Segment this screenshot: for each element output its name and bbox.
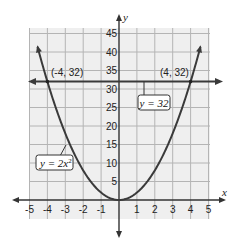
x-tick-label: -5 bbox=[25, 204, 34, 215]
x-tick-label: 5 bbox=[206, 204, 212, 215]
point-label-right: (4, 32) bbox=[160, 67, 189, 78]
grid-background bbox=[30, 28, 210, 219]
x-axis-label: x bbox=[221, 186, 227, 198]
x-tick-label: -4 bbox=[43, 204, 52, 215]
intersection-point bbox=[46, 80, 50, 84]
y-axis-up-arrow-icon bbox=[116, 14, 122, 21]
y-tick-label: 30 bbox=[106, 84, 118, 95]
y-tick-label: 5 bbox=[111, 176, 117, 187]
line-right-arrow-icon bbox=[215, 78, 223, 85]
intersection-point bbox=[189, 80, 193, 84]
x-axis-left-arrow-icon bbox=[12, 197, 19, 203]
point-label-left: (-4, 32) bbox=[51, 67, 83, 78]
x-tick-label: -3 bbox=[61, 204, 70, 215]
y-tick-label: 40 bbox=[106, 47, 118, 58]
x-tick-label: 1 bbox=[134, 204, 140, 215]
y-axis-down-arrow-icon bbox=[116, 231, 122, 238]
label-text-y32: y = 32 bbox=[139, 97, 169, 109]
y-tick-label: 20 bbox=[106, 121, 118, 132]
x-tick-label: 2 bbox=[152, 204, 158, 215]
label-text-parabola: y = 2x2 bbox=[39, 157, 72, 169]
x-tick-label: -2 bbox=[79, 204, 88, 215]
y-tick-label: 35 bbox=[106, 65, 118, 76]
parabola-chart: -5-4-3-2-11234551015202530354045 (-4, 32… bbox=[0, 0, 237, 249]
x-tick-label: 4 bbox=[188, 204, 194, 215]
y-tick-label: 45 bbox=[106, 28, 118, 39]
y-tick-label: 25 bbox=[106, 102, 118, 113]
y-axis-label: y bbox=[122, 11, 128, 23]
label-superscript: 2 bbox=[68, 157, 72, 165]
x-tick-label: 3 bbox=[170, 204, 176, 215]
x-tick-label: -1 bbox=[97, 204, 106, 215]
y-tick-label: 10 bbox=[106, 158, 118, 169]
y-tick-label: 15 bbox=[106, 139, 118, 150]
